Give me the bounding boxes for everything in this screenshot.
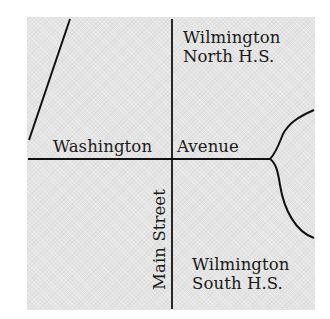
landmark-south-hs-line2: South H.S. <box>192 274 290 293</box>
washington-label-part2: Avenue <box>177 137 239 156</box>
landmark-south-hs-line1: Wilmington <box>192 255 290 274</box>
main-street-label: Main Street <box>150 189 169 290</box>
landmark-north-hs-line1: Wilmington <box>183 28 281 47</box>
washington-label-part1: Washington <box>53 137 152 156</box>
fork-lower-road <box>270 159 314 238</box>
diagonal-road <box>29 19 70 140</box>
landmark-north-hs: Wilmington North H.S. <box>183 28 281 66</box>
landmark-south-hs: Wilmington South H.S. <box>192 255 290 293</box>
landmark-north-hs-line2: North H.S. <box>183 47 281 66</box>
fork-upper-road <box>270 110 314 159</box>
